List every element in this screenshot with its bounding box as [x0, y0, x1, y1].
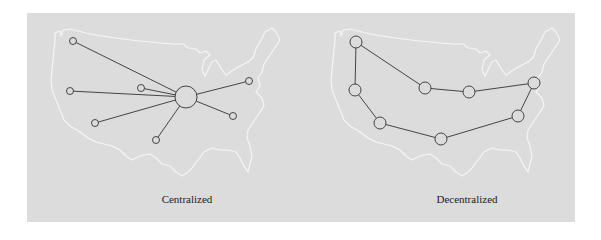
centralized-node — [67, 88, 74, 95]
decentralized-node — [435, 133, 447, 145]
decentralized-nodes — [349, 36, 540, 145]
decentralized-node — [349, 84, 361, 96]
decentralized-node — [528, 77, 540, 89]
decentralized-caption: Decentralized — [387, 193, 547, 205]
us-map-outline-left — [51, 28, 280, 176]
centralized-node — [70, 38, 77, 45]
decentralized-node — [419, 82, 431, 94]
decentralized-node — [350, 36, 362, 48]
centralized-hub-node — [175, 86, 197, 108]
centralized-leaf-nodes — [67, 38, 253, 144]
decentralized-node — [374, 117, 386, 129]
us-map-outline-right — [331, 28, 560, 176]
centralized-node — [138, 85, 145, 92]
centralized-node — [230, 113, 237, 120]
decentralized-node — [463, 86, 475, 98]
centralized-node — [153, 137, 160, 144]
centralized-node — [92, 120, 99, 127]
centralized-node — [246, 78, 253, 85]
centralized-caption: Centralized — [107, 193, 267, 205]
decentralized-node — [512, 110, 524, 122]
